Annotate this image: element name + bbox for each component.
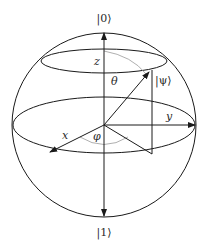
label-z: z: [93, 55, 100, 68]
label-psi: |ψ⟩: [155, 74, 172, 88]
label-y: y: [165, 110, 173, 123]
label-ket-1: |1⟩: [97, 226, 112, 240]
bloch-sphere-figure: |0⟩ |1⟩ |ψ⟩ z x y θ φ: [0, 0, 205, 248]
label-theta: θ: [111, 75, 118, 88]
bloch-sphere-diagram: |0⟩ |1⟩ |ψ⟩ z x y θ φ: [0, 0, 205, 248]
equatorial-projection: [104, 125, 152, 154]
label-phi: φ: [93, 130, 101, 143]
label-x: x: [62, 129, 69, 142]
label-ket-0: |0⟩: [97, 12, 112, 26]
